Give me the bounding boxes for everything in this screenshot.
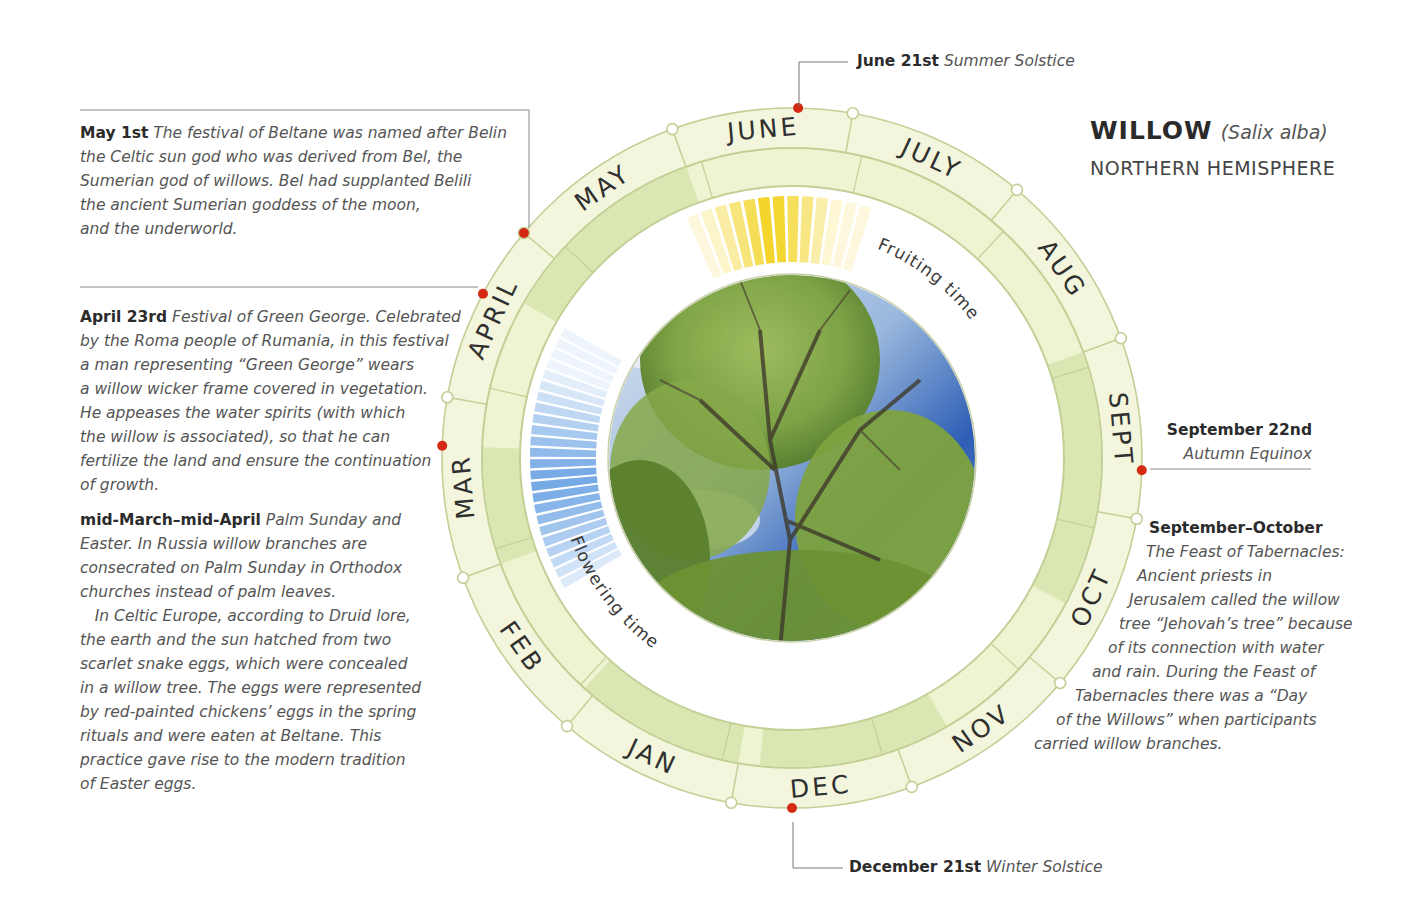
month-boundary-dot [1011, 184, 1022, 195]
december-leader-line [793, 822, 843, 868]
callout-date: June 21st [857, 52, 939, 70]
callout-label: Autumn Equinox [1150, 442, 1312, 466]
may-note: May 1st The festival of Beltane was name… [80, 121, 520, 241]
note-line: a man representing “Green George” wears [80, 353, 480, 377]
note-line: In Celtic Europe, according to Druid lor… [80, 604, 480, 628]
note-lead: September–October [1030, 516, 1350, 540]
month-boundary-dot [726, 797, 737, 808]
june-solstice-callout: June 21st Summer Solstice [857, 52, 1075, 70]
note-line: Festival of Green George. Celebrated [172, 308, 461, 326]
note-line: in a willow tree. The eggs were represen… [80, 676, 480, 700]
note-line: by the Roma people of Rumania, in this f… [80, 329, 480, 353]
note-line: tree “Jehovah’s tree” because [1030, 612, 1350, 636]
note-line: fertilize the land and ensure the contin… [80, 449, 480, 473]
tabernacles-note: September–October The Feast of Tabernacl… [1030, 516, 1350, 756]
note-lead: April 23rd [80, 308, 167, 326]
callout-date: December 21st [849, 858, 981, 876]
note-line: by red-painted chickens’ eggs in the spr… [80, 700, 480, 724]
note-line: churches instead of palm leaves. [80, 580, 480, 604]
event-date-dot [519, 228, 529, 238]
note-line: rituals and were eaten at Beltane. This [80, 724, 480, 748]
note-line: Sumerian god of willows. Bel had supplan… [80, 169, 520, 193]
month-label-dec: DEC [789, 770, 853, 804]
event-date-dot [1137, 465, 1147, 475]
month-boundary-dot [667, 124, 678, 135]
note-line: the willow is associated), so that he ca… [80, 425, 480, 449]
month-boundary-dot [906, 781, 917, 792]
month-boundary-dot [1115, 333, 1126, 344]
note-lead: May 1st [80, 124, 148, 142]
april-note: April 23rd Festival of Green George. Cel… [80, 305, 480, 497]
note-line: practice gave rise to the modern traditi… [80, 748, 480, 772]
title-subtitle: NORTHERN HEMISPHERE [1090, 157, 1335, 179]
september-equinox-callout: September 22nd Autumn Equinox [1150, 418, 1312, 466]
note-lines: The Feast of Tabernacles:Ancient priests… [1030, 540, 1350, 756]
note-line: The Feast of Tabernacles: [1030, 540, 1350, 564]
note-line: of its connection with water [1030, 636, 1350, 660]
note-line: Jerusalem called the willow [1030, 588, 1350, 612]
note-line: carried willow branches. [1030, 732, 1350, 756]
note-line: The festival of Beltane was named after … [153, 124, 507, 142]
note-line: the ancient Sumerian goddess of the moon… [80, 193, 520, 217]
fruiting-bar-segment [787, 196, 799, 262]
note-line: the earth and the sun hatched from two [80, 628, 480, 652]
mid-march-note: mid-March–mid-April Palm Sunday and East… [80, 508, 480, 796]
note-line: and the underworld. [80, 217, 520, 241]
event-date-dot [793, 103, 803, 113]
note-line: a willow wicker frame covered in vegetat… [80, 377, 480, 401]
june-leader-line [799, 62, 848, 106]
month-boundary-dot [847, 108, 858, 119]
callout-label: Winter Solstice [986, 858, 1103, 876]
event-date-dot [478, 289, 488, 299]
note-line: Palm Sunday and [266, 511, 401, 529]
note-line: Tabernacles there was a “Day [1030, 684, 1350, 708]
callout-date: September 22nd [1150, 418, 1312, 442]
note-line: scarlet snake eggs, which were concealed [80, 652, 480, 676]
event-date-dot [787, 803, 797, 813]
note-line: Ancient priests in [1030, 564, 1350, 588]
note-line: the Celtic sun god who was derived from … [80, 145, 520, 169]
december-solstice-callout: December 21st Winter Solstice [849, 858, 1103, 876]
title-latin-name: (Salix alba) [1221, 121, 1328, 143]
note-line: consecrated on Palm Sunday in Orthodox [80, 556, 480, 580]
title-block: WILLOW(Salix alba) NORTHERN HEMISPHERE [1090, 116, 1335, 179]
note-line: of the Willows” when participants [1030, 708, 1350, 732]
month-boundary-dot [562, 721, 573, 732]
note-line: of growth. [80, 473, 480, 497]
note-line: and rain. During the Feast of [1030, 660, 1350, 684]
note-line: of Easter eggs. [80, 772, 480, 796]
callout-label: Summer Solstice [944, 52, 1075, 70]
note-line: Easter. In Russia willow branches are [80, 532, 480, 556]
note-lead: mid-March–mid-April [80, 511, 261, 529]
note-line: He appeases the water spirits (with whic… [80, 401, 480, 425]
title-name: WILLOW [1090, 116, 1213, 145]
